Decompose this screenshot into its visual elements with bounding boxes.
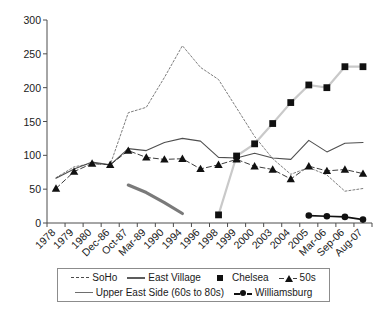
y-axis-ticks <box>43 20 47 223</box>
data-point-marker <box>323 84 330 91</box>
series-east-village <box>56 138 363 178</box>
x-axis-labels: 197819791980Dec-86Oct-87Mar-891990199419… <box>32 226 364 259</box>
series-soho <box>56 46 363 192</box>
chart-legend: SoHoEast VillageChelsea50sUpper East Sid… <box>57 268 330 302</box>
legend-item-east-village[interactable]: East Village <box>127 273 201 283</box>
line-chart-plot: 300250200150100500 197819791980Dec-86Oct… <box>0 0 381 311</box>
data-point-marker <box>178 155 186 162</box>
y-tick-label: 50 <box>29 183 41 195</box>
square-marker-key <box>211 273 229 283</box>
legend-label: Upper East Side (60s to 80s) <box>96 288 224 298</box>
data-point-marker <box>342 214 349 221</box>
series-50s <box>52 146 367 191</box>
data-point-marker <box>341 165 349 172</box>
legend-label: 50s <box>300 273 316 283</box>
legend-item-chelsea[interactable]: Chelsea <box>211 273 269 283</box>
legend-item-williamsburg[interactable]: Williamsburg <box>234 288 312 298</box>
y-tick-label: 150 <box>23 116 41 128</box>
y-tick-label: 300 <box>23 14 41 26</box>
legend-row: Upper East Side (60s to 80s)Williamsburg <box>64 285 323 300</box>
solid-line-key <box>127 273 145 283</box>
legend-row: SoHoEast VillageChelsea50s <box>64 270 323 285</box>
data-point-marker <box>287 99 294 106</box>
y-tick-label: 0 <box>35 217 41 229</box>
series-line <box>56 151 363 189</box>
data-point-marker <box>324 213 331 220</box>
y-tick-label: 100 <box>23 149 41 161</box>
series-line <box>56 46 363 192</box>
data-point-marker <box>215 211 222 218</box>
y-tick-label: 250 <box>23 48 41 60</box>
legend-item-soho[interactable]: SoHo <box>71 273 117 283</box>
legend-label: Williamsburg <box>255 288 312 298</box>
series-line <box>128 185 182 213</box>
series-chelsea <box>215 63 366 218</box>
x-axis-ticks <box>47 223 372 227</box>
data-point-marker <box>250 162 258 169</box>
chart-figure: 300250200150100500 197819791980Dec-86Oct… <box>0 0 381 311</box>
series-line <box>219 67 364 215</box>
y-tick-label: 200 <box>23 82 41 94</box>
data-point-marker <box>251 140 258 147</box>
series-line <box>309 216 363 220</box>
series-line <box>56 138 363 178</box>
dash-line-key <box>71 273 89 283</box>
series-williamsburg <box>306 212 367 223</box>
data-point-marker <box>269 120 276 127</box>
series-upper-east-side-60s-to-80s <box>128 185 182 213</box>
thin-line-key <box>75 288 93 298</box>
data-point-marker <box>306 212 313 219</box>
data-point-marker <box>342 63 349 70</box>
legend-label: SoHo <box>92 273 117 283</box>
data-point-marker <box>305 82 312 89</box>
data-point-marker <box>142 153 150 160</box>
legend-item-50s[interactable]: 50s <box>279 273 316 283</box>
circle-marker-key <box>234 288 252 298</box>
data-point-marker <box>360 63 367 70</box>
data-point-marker <box>214 161 222 168</box>
triangle-marker-key <box>279 273 297 283</box>
data-point-marker <box>287 175 295 182</box>
data-point-marker <box>124 146 132 153</box>
legend-label: Chelsea <box>232 273 269 283</box>
series-layer <box>52 46 367 223</box>
data-point-marker <box>360 216 367 223</box>
y-axis-labels: 300250200150100500 <box>23 14 41 229</box>
legend-item-upper-east-side-60s-to-80s[interactable]: Upper East Side (60s to 80s) <box>75 288 224 298</box>
legend-label: East Village <box>148 273 201 283</box>
data-point-marker <box>305 162 313 169</box>
